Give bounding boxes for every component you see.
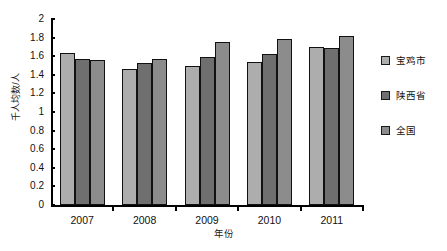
y-axis-tick-label: 1.2: [30, 88, 51, 98]
y-axis-tick-mark: [51, 130, 55, 132]
x-axis-tick-label: 2010: [258, 214, 281, 226]
y-axis-tick-mark: [51, 148, 55, 150]
bar: [185, 66, 200, 205]
x-axis-tick-label: 2011: [321, 214, 344, 226]
y-axis-tick: 0: [38, 200, 51, 210]
y-axis-tick-label: 1.4: [30, 70, 51, 80]
bar: [75, 59, 90, 205]
y-axis-tick: 1.4: [30, 70, 51, 80]
bar: [247, 62, 262, 205]
legend-item[interactable]: 全国: [381, 125, 447, 136]
x-axis-tick-mark: [362, 206, 364, 211]
y-axis-tick: 0.6: [30, 144, 51, 154]
x-axis-tick-mark: [237, 206, 239, 211]
y-axis-tick: 0.2: [30, 181, 51, 191]
y-axis-tick-mark: [51, 74, 55, 76]
bar: [122, 69, 137, 205]
legend-item-label: 陕西省: [396, 90, 426, 101]
x-axis-tick-mark: [112, 206, 114, 211]
plot-area: 21.81.61.41.210.80.60.40.20 200720082009…: [51, 19, 363, 205]
legend-item-label: 全国: [396, 125, 416, 136]
bar: [215, 42, 230, 205]
y-axis-tick-mark: [51, 92, 55, 94]
legend-swatch-icon: [381, 126, 390, 135]
y-axis-tick: 1.2: [30, 88, 51, 98]
bar: [200, 57, 215, 205]
bar: [324, 48, 339, 205]
y-axis-tick: 1: [38, 107, 51, 117]
y-axis-title: 千人均数/人: [11, 47, 21, 147]
legend-item[interactable]: 陕西省: [381, 90, 447, 101]
x-axis-tick-mark: [175, 206, 177, 211]
legend-swatch-icon: [381, 56, 390, 65]
y-axis-tick-label: 1.8: [30, 33, 51, 43]
y-axis-tick-mark: [51, 18, 55, 20]
bar: [339, 36, 354, 205]
bar: [90, 60, 105, 205]
y-axis-tick: 2: [38, 14, 51, 24]
y-axis-tick: 0.8: [30, 126, 51, 136]
y-axis-tick-label: 1.6: [30, 51, 51, 61]
y-axis-tick-label: 0.2: [30, 181, 51, 191]
y-axis-tick-label: 0.6: [30, 144, 51, 154]
bar-chart: 千人均数/人 21.81.61.41.210.80.60.40.20 20072…: [0, 0, 447, 251]
y-axis-tick-mark: [51, 167, 55, 169]
bar: [262, 54, 277, 205]
bar: [152, 59, 167, 205]
bar: [277, 39, 292, 205]
x-axis-line: [51, 205, 364, 207]
y-axis-tick-mark: [51, 37, 55, 39]
y-axis-tick-mark: [51, 185, 55, 187]
bar: [60, 53, 75, 205]
y-axis-tick-label: 2: [38, 14, 51, 24]
y-axis-tick-label: 0.4: [30, 163, 51, 173]
x-axis-tick-label: 2008: [133, 214, 156, 226]
y-axis-tick-mark: [51, 204, 55, 206]
y-axis-tick: 1.8: [30, 33, 51, 43]
bar: [137, 63, 152, 205]
y-axis-tick-label: 1: [38, 107, 51, 117]
y-axis-tick-label: 0: [38, 200, 51, 210]
x-axis-tick-label: 2009: [195, 214, 218, 226]
chart-legend: 宝鸡市陕西省全国: [381, 55, 447, 160]
y-axis-tick-label: 0.8: [30, 126, 51, 136]
y-axis-tick: 0.4: [30, 163, 51, 173]
legend-item-label: 宝鸡市: [396, 55, 426, 66]
y-axis-tick-mark: [51, 111, 55, 113]
legend-swatch-icon: [381, 91, 390, 100]
x-axis-tick-label: 2007: [71, 214, 94, 226]
legend-item[interactable]: 宝鸡市: [381, 55, 447, 66]
x-axis-title: 年份: [0, 228, 447, 239]
y-axis-tick-mark: [51, 55, 55, 57]
y-axis-tick: 1.6: [30, 51, 51, 61]
bar: [309, 47, 324, 205]
x-axis-tick-mark: [300, 206, 302, 211]
